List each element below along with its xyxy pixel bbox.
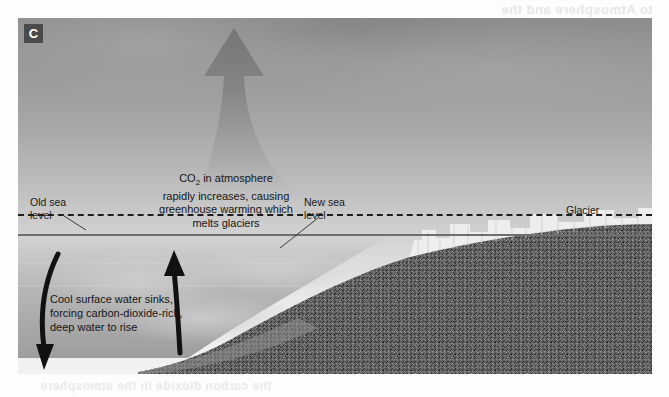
old-sea-level-label: Old sea level	[30, 196, 66, 221]
glacier-label: Glacier	[566, 204, 599, 217]
upwelling-arrow-head	[164, 250, 185, 276]
co2-caption-line3: greenhouse warming which	[159, 203, 293, 215]
co2-caption-line4: melts glaciers	[192, 217, 259, 229]
co2-caption: CO2 in atmosphere rapidly increases, cau…	[114, 172, 338, 230]
co2-caption-line1: CO	[179, 172, 196, 184]
climate-diagram-figure: C Old sea level New sea level Glacier CO…	[18, 18, 652, 374]
co2-caption-line1b: in atmosphere	[200, 172, 273, 184]
bleed-through-text-top: to Atmosphere and the	[501, 2, 653, 17]
panel-label-badge: C	[24, 24, 43, 43]
bleed-through-text-bottom: the carbon dioxide in the atmosphere	[40, 379, 271, 393]
co2-caption-line2: rapidly increases, causing	[163, 190, 290, 202]
circulation-caption: Cool surface water sinks, forcing carbon…	[50, 292, 188, 334]
sinking-arrow-head	[36, 344, 54, 370]
